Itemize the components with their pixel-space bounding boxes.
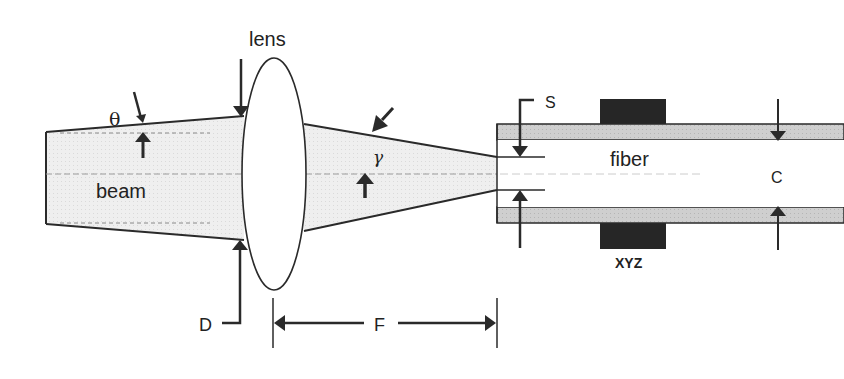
lens-label: lens <box>249 28 286 50</box>
d-label: D <box>199 315 212 335</box>
lens <box>242 58 306 290</box>
c-label: C <box>771 169 783 186</box>
gamma-label: γ <box>373 147 384 167</box>
focal-length-dimension <box>273 298 497 348</box>
arrow-left-icon <box>274 315 285 331</box>
fiber-cladding-bottom <box>497 207 844 223</box>
theta-label: θ <box>109 108 120 130</box>
f-label: F <box>374 315 385 335</box>
xyz-mount-bottom <box>600 222 666 249</box>
fiber-coupling-diagram: θ beam γ lens D F XYZ <box>0 0 844 379</box>
fiber-cladding-top <box>497 124 844 140</box>
fiber <box>497 124 844 223</box>
arrow-right-icon <box>485 315 496 331</box>
xyz-mount-top <box>600 99 666 125</box>
fiber-label: fiber <box>610 148 649 170</box>
s-label: S <box>545 94 556 111</box>
xyz-label: XYZ <box>615 255 643 271</box>
converging-cone <box>304 124 497 231</box>
beam-label: beam <box>96 180 146 202</box>
arrow-up-icon <box>232 240 248 250</box>
